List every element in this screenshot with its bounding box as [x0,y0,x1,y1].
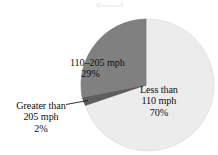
slice-percent-less-than-110: 70% [140,107,178,118]
slice-label-less-than-110: Less than 110 mph 70% [140,84,178,118]
slice-percent-110-205: 29% [70,68,125,79]
slice-label-110-205: 110–205 mph 29% [70,57,125,80]
slice-label-line-2: 110 mph [140,95,178,106]
slice-label-greater-than-205: Greater than 205 mph 2% [2,100,80,134]
slice-label-line-1: Less than [140,84,178,95]
slice-label-line-2: 205 mph [2,111,80,122]
slice-label-line-1: 110–205 mph [70,57,125,68]
slice-label-line-1: Greater than [2,100,80,111]
slice-percent-greater-than-205: 2% [2,123,80,134]
pie-chart-figure: Speed Less than 110 mph 70% 110–205 mph … [0,0,218,155]
